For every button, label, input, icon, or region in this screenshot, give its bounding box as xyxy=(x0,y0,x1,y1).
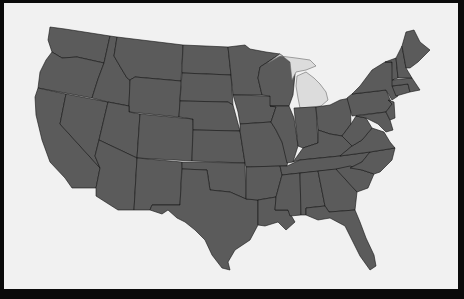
map-frame: WashingtonOregonCaliforniaNevadaIdahoMon… xyxy=(4,3,458,289)
state-iowa: Iowa xyxy=(233,95,276,124)
state-florida: Florida xyxy=(306,206,376,270)
state-indiana: Indiana xyxy=(294,107,318,148)
state-wyoming: Wyoming xyxy=(129,77,181,117)
state-kansas: Kansas xyxy=(192,130,245,163)
us-states-map: WashingtonOregonCaliforniaNevadaIdahoMon… xyxy=(4,3,458,289)
state-colorado: Colorado xyxy=(137,114,193,161)
state-new-mexico: New Mexico xyxy=(134,158,182,210)
state-michigan-lp: Michigan-LP xyxy=(296,72,328,108)
state-south-dakota: South Dakota xyxy=(180,73,233,105)
state-north-dakota: North Dakota xyxy=(182,45,231,75)
state-maine: Maine xyxy=(402,30,430,68)
